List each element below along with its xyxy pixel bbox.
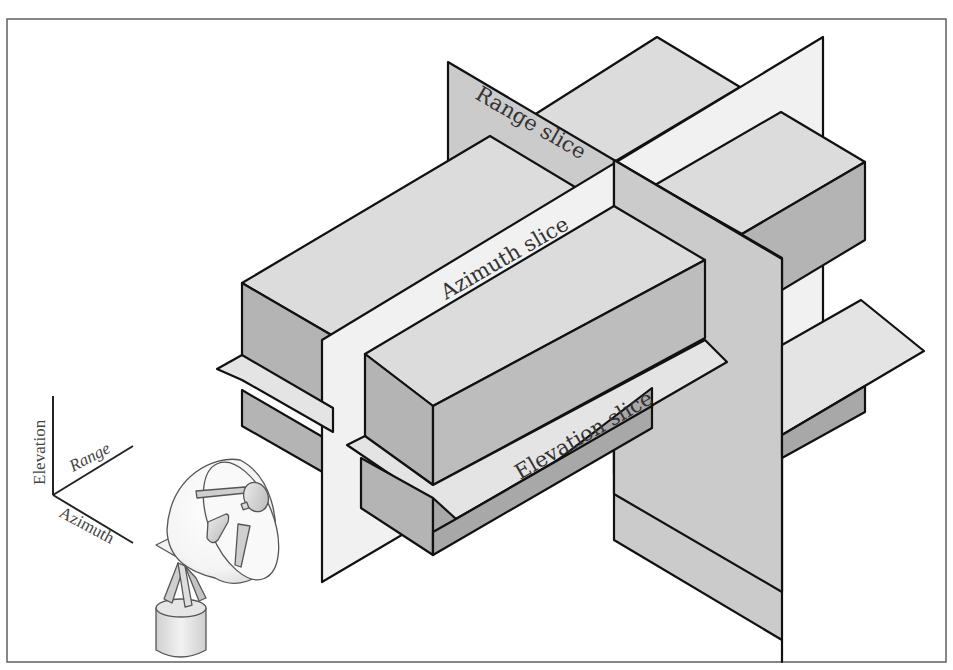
radar-base-top — [156, 599, 206, 617]
radar-feed-joint — [241, 502, 249, 510]
range-axis-label: Range — [65, 438, 114, 476]
radar-slices-figure: Range slice Azimuth slice Elevation slic… — [0, 0, 953, 670]
axes-indicator: Elevation Range Azimuth — [30, 396, 133, 548]
elevation-axis-label: Elevation — [30, 419, 49, 485]
azimuth-axis-label: Azimuth — [56, 503, 118, 548]
radar-dish-icon — [156, 452, 294, 657]
volume-diagram: Range slice Azimuth slice Elevation slic… — [217, 37, 924, 662]
